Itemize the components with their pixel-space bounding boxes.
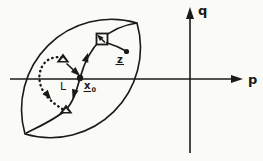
triangle-to-x0-arrow-line xyxy=(67,64,74,71)
z-point-marker xyxy=(124,49,129,54)
x0-label-base: x xyxy=(84,80,91,91)
p-axis-label: p xyxy=(248,72,257,87)
square-point-marker xyxy=(95,33,107,45)
p-axis xyxy=(10,75,243,83)
top-triangle-marker xyxy=(57,54,70,63)
phase-space-diagram-canvas: p q L x 0 xyxy=(0,0,263,161)
q-axis-label: q xyxy=(198,3,207,18)
square-to-z-connector xyxy=(106,43,125,51)
x0-label: x 0 xyxy=(84,80,97,94)
q-axis-arrow-icon xyxy=(186,7,194,19)
x0-label-subscript: 0 xyxy=(92,86,97,94)
z-label-text: z xyxy=(117,54,123,65)
z-label: z xyxy=(116,54,125,65)
q-axis xyxy=(186,7,194,153)
svg-text:x: x xyxy=(84,80,91,91)
phase-space-figure: p q L x 0 xyxy=(0,0,263,161)
loop-label: L xyxy=(60,80,67,93)
dotted-loop-arrow-icon xyxy=(43,90,54,102)
svg-text:0: 0 xyxy=(92,86,97,94)
p-axis-arrow-icon xyxy=(231,75,243,83)
x0-point-marker xyxy=(77,75,83,81)
